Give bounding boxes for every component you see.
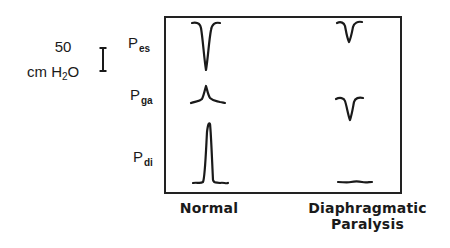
trace-normal-pdi (193, 123, 228, 183)
trace-normal-pes (192, 23, 220, 70)
trace-paralysis-pga (336, 98, 363, 120)
column-label-normal: Normal (168, 200, 250, 216)
scale-bar-icon (100, 48, 107, 71)
column-label-paralysis-line2: Paralysis (285, 216, 450, 232)
trace-paralysis-pdi (338, 181, 372, 182)
column-label-paralysis-line1: Diaphragmatic (285, 200, 450, 216)
trace-normal-pga (191, 86, 225, 103)
column-label-paralysis: Diaphragmatic Paralysis (285, 200, 450, 232)
trace-paralysis-pes (337, 22, 362, 42)
plot-frame (165, 17, 401, 193)
